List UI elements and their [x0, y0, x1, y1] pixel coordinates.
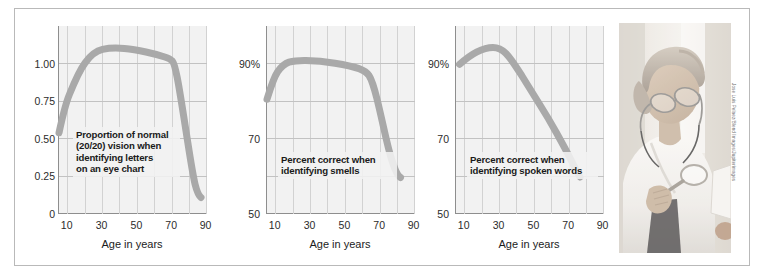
- xaxis-title-vision: Age in years: [58, 238, 206, 250]
- xtick-smell-50: 50: [332, 219, 356, 231]
- xaxis-title-smell: Age in years: [266, 238, 414, 250]
- chart-hearing: 50 70 90% 10 30 50 70 90 Age in years Pe…: [419, 9, 619, 267]
- annotation-smell: Percent correct when identifying smells: [278, 152, 397, 179]
- chart-vision-svg: [59, 26, 207, 214]
- chart-vision: 0 0.25 0.50 0.75 1.00 10 30 50 70 90 Age…: [15, 9, 233, 267]
- xtick-hearing-70: 70: [556, 219, 580, 231]
- xtick-smell-70: 70: [367, 219, 391, 231]
- xtick-smell-30: 30: [298, 219, 322, 231]
- photo-elderly-woman: [619, 23, 731, 253]
- ytick-hearing-90: 90%: [405, 58, 449, 70]
- ytick-vision-100: 1.00: [15, 58, 55, 70]
- ytick-smell-50: 50: [224, 208, 260, 220]
- ytick-vision-0: 0: [23, 208, 55, 220]
- ytick-smell-70: 70: [224, 133, 260, 145]
- xtick-hearing-50: 50: [521, 219, 545, 231]
- annotation-hearing: Percent correct when identifying spoken …: [467, 152, 598, 179]
- photo-credit: Jose Luis Pelaez/Blend Images/Jupiterima…: [731, 83, 736, 203]
- chart-hearing-svg: [456, 26, 604, 214]
- chart-smell: 50 70 90% 10 30 50 70 90 Age in years Pe…: [230, 9, 430, 267]
- gridlines-vertical: [465, 26, 604, 214]
- photo-panel: Jose Luis Pelaez/Blend Images/Jupiterima…: [619, 23, 731, 253]
- annotation-vision: Proportion of normal (20/20) vision when…: [73, 127, 180, 177]
- xtick-hearing-30: 30: [487, 219, 511, 231]
- xtick-vision-50: 50: [124, 219, 148, 231]
- xtick-vision-10: 10: [55, 219, 79, 231]
- xtick-hearing-10: 10: [452, 219, 476, 231]
- xaxis-title-hearing: Age in years: [455, 238, 603, 250]
- ytick-vision-050: 0.50: [15, 133, 55, 145]
- ytick-hearing-70: 70: [413, 133, 449, 145]
- gridlines-vertical: [276, 26, 415, 214]
- chart-smell-svg: [267, 26, 415, 214]
- plot-area-smell: [266, 26, 414, 214]
- xtick-vision-90: 90: [194, 219, 218, 231]
- ytick-hearing-50: 50: [413, 208, 449, 220]
- xtick-smell-10: 10: [263, 219, 287, 231]
- xtick-vision-30: 30: [90, 219, 114, 231]
- ytick-vision-075: 0.75: [15, 95, 55, 107]
- ytick-smell-90: 90%: [216, 58, 260, 70]
- plot-area-hearing: [455, 26, 603, 214]
- photo-illustration: [619, 23, 731, 253]
- ytick-vision-025: 0.25: [15, 170, 55, 182]
- xtick-vision-70: 70: [159, 219, 183, 231]
- xtick-hearing-90: 90: [591, 219, 615, 231]
- plot-area-vision: [58, 26, 206, 214]
- figure-frame: 0 0.25 0.50 0.75 1.00 10 30 50 70 90 Age…: [14, 8, 750, 266]
